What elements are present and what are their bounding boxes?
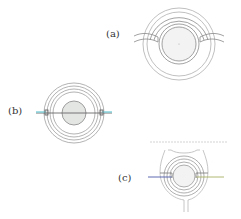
panel-a-diagram (134, 8, 224, 80)
panel-c-diagram (148, 142, 228, 212)
panel-b-diagram (36, 83, 112, 143)
figure-canvas (0, 0, 241, 219)
